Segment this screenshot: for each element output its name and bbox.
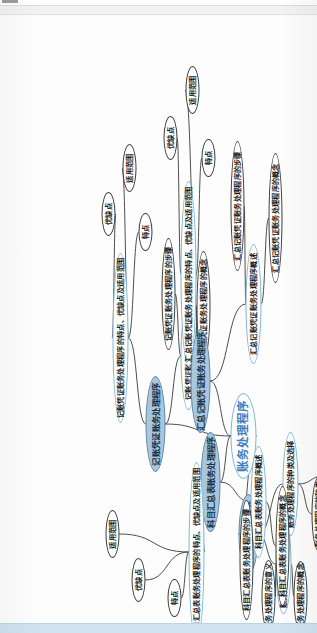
leaf-2-2-1[interactable]: 特点 (138, 213, 152, 251)
branch-node-2-label: 记账凭证账务处理程序 (151, 383, 159, 466)
root-node-label: 账务处理程序 (237, 400, 249, 472)
branch-node-2[interactable]: 记账凭证账务处理程序 (145, 376, 165, 472)
leaf-2-2-1-label: 特点 (141, 225, 148, 240)
mindmap-connector (181, 552, 188, 598)
leaf-3-2-2[interactable]: 优缺点 (163, 116, 177, 160)
mindmap-connector (210, 381, 230, 436)
mindmap-connector (210, 304, 245, 381)
leaf-2-2-2[interactable]: 优缺点 (101, 192, 115, 236)
leaf-3-1-2-label: 汇总记账凭证账务处理程序的步骤 (233, 151, 240, 261)
leaf-4-1-1-label: 科目汇总表账务处理程序的概念 (278, 495, 285, 597)
leaf-1-1-1-label: 账务处理程序的意义 (264, 563, 271, 624)
leaf-3-2-1[interactable]: 特点 (201, 139, 215, 177)
leaf-2-2-3-label: 适用范围 (125, 153, 132, 182)
mindmap-canvas[interactable]: 账务处理程序账务处理程序概述账务处理程序的概念与意义账务处理程序的意义账务处理程… (0, 14, 317, 624)
subnode-4-2-label: 科目汇总表账务处理程序的特点、优缺点及适用范围 (192, 468, 199, 624)
mindmap-connector (175, 294, 180, 356)
leaf-2-1-2[interactable]: 记账凭证账务处理程序的步骤 (161, 238, 175, 350)
mindmap-connector (298, 484, 311, 514)
window-chrome-nub (2, 0, 18, 3)
branch-node-4-label: 科目汇总表账务处理程序 (206, 436, 214, 527)
subnode-3-1-label: 汇总记账凭证账务处理程序概述 (249, 253, 256, 355)
branch-node-3-label: 汇总记账凭证账务处理程序 (196, 331, 204, 431)
mindmap-connector (220, 436, 230, 482)
leaf-1-1-1[interactable]: 账务处理程序的意义 (261, 560, 275, 624)
mindmap-screen: 账务处理程序账务处理程序概述账务处理程序的概念与意义账务处理程序的意义账务处理程… (0, 0, 317, 633)
mindmap-connector-layer (0, 14, 317, 624)
leaf-4-1-1[interactable]: 科目汇总表账务处理程序的概念 (275, 486, 289, 606)
leaf-1-1-2-label: 账务处理程序的概念 (296, 563, 303, 624)
leaf-4-1-2[interactable]: 科目汇总表账务处理程序的步骤 (239, 500, 253, 620)
mindmap-connector (128, 232, 138, 338)
leaf-4-1-2-label: 科目汇总表账务处理程序的步骤 (242, 509, 249, 611)
leaf-1-1-2[interactable]: 账务处理程序的概念 (293, 561, 307, 624)
subnode-2-2-label: 记账凭证账务处理程序的特点、优缺点及适用范围 (116, 258, 123, 419)
mindmap-connector (261, 218, 268, 304)
leaf-4-2-3-label: 适用范围 (108, 519, 115, 548)
mindmap-connector (119, 534, 188, 552)
leaf-3-1-1[interactable]: 汇总记账凭证账务处理程序的概念 (268, 153, 282, 283)
mindmap-connector (165, 356, 180, 424)
window-bottom-chrome (0, 623, 317, 633)
subnode-4-1-label: 科目汇总表账务处理程序概述 (254, 455, 261, 550)
leaf-4-2-2[interactable]: 优缺点 (131, 558, 145, 602)
mindmap-viewport[interactable]: 账务处理程序账务处理程序概述账务处理程序的概念与意义账务处理程序的意义账务处理程… (0, 14, 317, 624)
leaf-1-2-1-label: 账务处理程序的种类 (314, 481, 317, 547)
subnode-3-2[interactable]: 汇总记账凭证账务处理程序的特点、优缺点及适用范围 (180, 181, 196, 367)
mindmap-connector (177, 138, 180, 274)
subnode-3-1[interactable]: 汇总记账凭证账务处理程序概述 (245, 244, 261, 364)
subnode-2-2[interactable]: 记账凭证账务处理程序的特点、优缺点及适用范围 (112, 253, 128, 423)
window-top-chrome (0, 0, 317, 6)
window-toolbar-strip (0, 6, 317, 15)
subnode-4-2[interactable]: 科目汇总表账务处理程序的特点、优缺点及适用范围 (188, 462, 204, 624)
leaf-4-2-1-label: 特点 (170, 591, 177, 606)
leaf-4-2-1[interactable]: 特点 (167, 579, 181, 617)
leaf-3-2-2-label: 优缺点 (166, 127, 173, 149)
leaf-2-2-2-label: 优缺点 (104, 203, 111, 225)
leaf-2-1-2-label: 记账凭证账务处理程序的步骤 (164, 247, 171, 342)
leaf-3-2-3[interactable]: 适用范围 (185, 66, 199, 114)
leaf-3-1-1-label: 汇总记账凭证账务处理程序的概念 (271, 163, 278, 273)
leaf-4-2-2-label: 优缺点 (134, 569, 141, 591)
leaf-4-2-3[interactable]: 适用范围 (105, 510, 119, 558)
mindmap-connector (145, 552, 188, 580)
mindmap-connector (128, 338, 145, 424)
leaf-3-2-3-label: 适用范围 (188, 75, 195, 104)
leaf-3-1-2[interactable]: 汇总记账凭证账务处理程序的步骤 (230, 141, 244, 271)
leaf-3-2-1-label: 特点 (204, 151, 211, 166)
leaf-2-2-3[interactable]: 适用范围 (122, 144, 136, 192)
subnode-3-2-label: 汇总记账凭证账务处理程序的特点、优缺点及适用范围 (184, 186, 191, 361)
